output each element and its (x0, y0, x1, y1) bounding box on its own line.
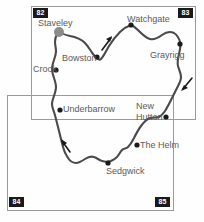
route-map: 82 83 84 85 Staveley Watchgate Grayrigg … (0, 0, 204, 222)
arrow-south-west-icon (181, 78, 192, 91)
marker-grayrigg (177, 41, 182, 46)
marker-staveley (54, 27, 64, 37)
label-bowston: Bowston (62, 53, 97, 63)
grid-square-82: 82 (33, 8, 48, 18)
label-sedgwick: Sedgwick (106, 166, 145, 176)
marker-the-helm (134, 142, 139, 147)
grid-square-85: 85 (155, 197, 170, 207)
grid-square-83: 83 (178, 8, 193, 18)
marker-underbarrow (57, 107, 62, 112)
grid-square-84: 84 (9, 197, 24, 207)
label-new-hutton-line2: Hutton (136, 112, 163, 122)
label-new-hutton-line1: New (136, 101, 154, 111)
label-crook: Crook (33, 64, 57, 74)
label-watchgate: Watchgate (127, 14, 170, 24)
label-staveley: Staveley (38, 18, 73, 28)
label-the-helm: The Helm (140, 140, 179, 150)
marker-sedgwick (105, 160, 110, 165)
label-underbarrow: Underbarrow (63, 104, 115, 114)
label-grayrigg: Grayrigg (150, 50, 185, 60)
marker-new-hutton (163, 114, 168, 119)
